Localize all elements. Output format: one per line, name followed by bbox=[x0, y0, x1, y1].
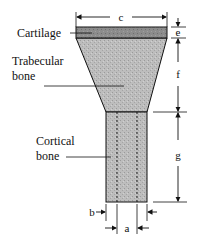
bone-model-diagram: c e f g b a Cartilage Trabecular bone Co… bbox=[0, 0, 197, 243]
cortical-label-line2: bone bbox=[36, 149, 59, 163]
cartilage-layer bbox=[76, 27, 167, 38]
dimension-g-label: g bbox=[175, 149, 181, 161]
trabecular-label-line2: bone bbox=[12, 69, 35, 83]
trabecular-bone-region bbox=[76, 38, 167, 112]
trabecular-label-line1: Trabecular bbox=[12, 54, 64, 68]
dimension-e-label: e bbox=[176, 26, 181, 38]
cartilage-label: Cartilage bbox=[17, 26, 61, 40]
cortical-label-line1: Cortical bbox=[36, 134, 75, 148]
dimension-f-label: f bbox=[176, 68, 180, 80]
dimension-a-label: a bbox=[125, 222, 130, 234]
dimension-b-label: b bbox=[89, 206, 95, 218]
dimension-c-label: c bbox=[119, 11, 124, 23]
cortical-bone-region bbox=[106, 112, 147, 202]
